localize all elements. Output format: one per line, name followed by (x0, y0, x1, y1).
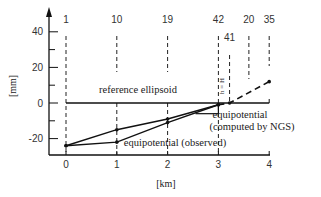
y-ticks: 40200-20 (29, 26, 58, 144)
benchmark-label: 42 (213, 14, 225, 25)
x-tick-label: 0 (63, 159, 69, 170)
y-tick-label: 0 (37, 98, 43, 109)
y-tick-label: -20 (29, 133, 44, 144)
benchmark-label: 10 (111, 14, 123, 25)
x-tick-label: 1 (114, 159, 120, 170)
data-point (166, 121, 170, 125)
y-axis-arrow-icon (46, 7, 52, 17)
annotation-label: equipotential (213, 109, 268, 120)
benchmark-label: 35 (264, 14, 276, 25)
y-tick-label: 40 (32, 26, 44, 37)
y-tick-label: 20 (32, 62, 44, 73)
series-line (218, 82, 269, 105)
data-point (64, 144, 68, 148)
annotation-label: (computed by NGS) (209, 121, 295, 133)
x-tick-label: 4 (266, 159, 272, 170)
benchmark-label: 1 (63, 14, 69, 25)
benchmark-label: 20 (243, 14, 255, 25)
chart: 40200-20 01234 1101942412035 reference e… (0, 0, 321, 197)
annotation-label: reference ellipsoid (99, 84, 178, 95)
data-point (228, 101, 232, 105)
y-axis-label: [mm] (7, 75, 18, 97)
x-axis-label: [km] (156, 178, 175, 189)
x-tick-label: 2 (165, 159, 171, 170)
annotation-label: h = H (218, 78, 226, 94)
x-tick-label: 3 (216, 159, 222, 170)
data-point (267, 80, 271, 84)
data-point (115, 140, 119, 144)
annotation-label: equipotential (observed) (124, 137, 227, 149)
benchmark-label: 41 (224, 32, 236, 43)
data-point (166, 117, 170, 121)
data-point (115, 128, 119, 132)
benchmark-label: 19 (162, 14, 174, 25)
